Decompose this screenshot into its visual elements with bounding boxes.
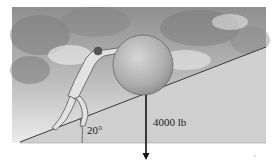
weight-label: 4000 lb: [153, 116, 186, 128]
incline-angle-label: 20°: [87, 124, 102, 136]
boulder: [113, 35, 173, 95]
incline-diagram: [0, 0, 274, 166]
corner-mark: ': [254, 153, 255, 161]
